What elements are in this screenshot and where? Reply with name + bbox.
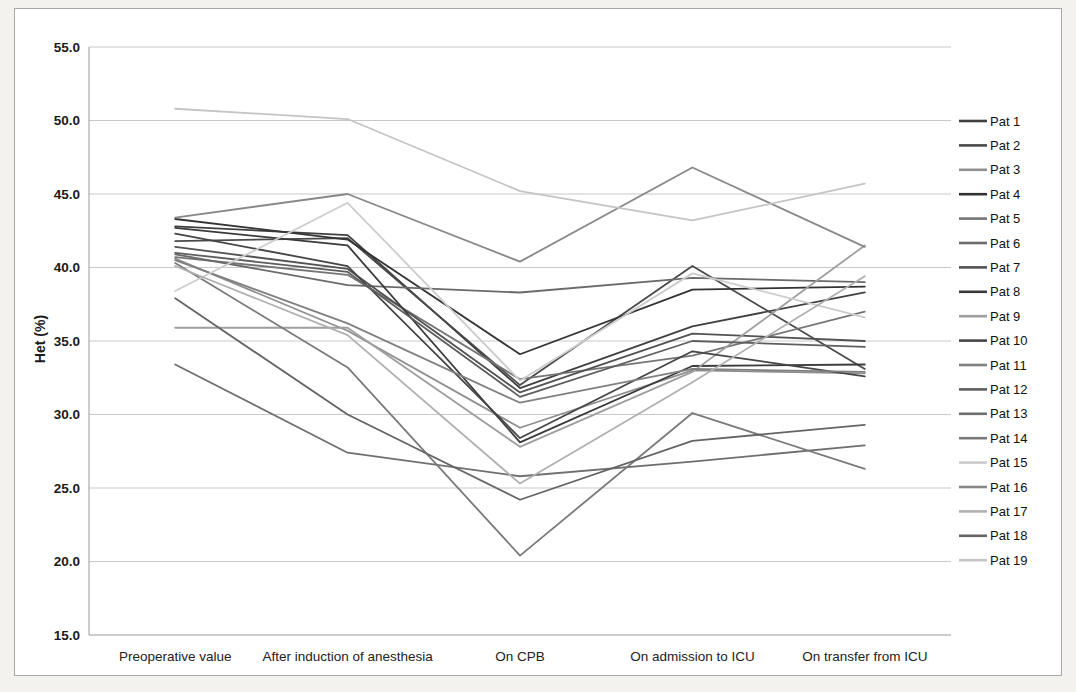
legend-item-pat-18: Pat 18 (959, 528, 1028, 543)
legend-label: Pat 10 (990, 333, 1028, 348)
legend-label: Pat 15 (990, 455, 1028, 470)
legend-label: Pat 19 (990, 553, 1028, 568)
legend-item-pat-5: Pat 5 (959, 211, 1020, 226)
y-tick-label: 35.0 (54, 334, 80, 349)
x-category-label: On CPB (495, 649, 545, 664)
x-category-label: Preoperative value (119, 649, 232, 664)
legend-label: Pat 1 (990, 114, 1020, 129)
y-tick-label: 30.0 (54, 407, 80, 422)
x-category-label: On transfer from ICU (802, 649, 927, 664)
y-tick-label: 25.0 (54, 481, 80, 496)
legend-label: Pat 6 (990, 236, 1020, 251)
legend-item-pat-8: Pat 8 (959, 284, 1020, 299)
legend-item-pat-10: Pat 10 (959, 333, 1028, 348)
legend-item-pat-15: Pat 15 (959, 455, 1028, 470)
legend-item-pat-17: Pat 17 (959, 504, 1028, 519)
x-category-label: On admission to ICU (630, 649, 755, 664)
page: 55.050.045.040.035.030.025.020.015.0Preo… (0, 0, 1076, 692)
legend-label: Pat 13 (990, 406, 1028, 421)
legend-label: Pat 16 (990, 480, 1028, 495)
legend-label: Pat 12 (990, 382, 1028, 397)
legend-item-pat-14: Pat 14 (959, 431, 1028, 446)
legend-item-pat-4: Pat 4 (959, 187, 1020, 202)
legend-item-pat-12: Pat 12 (959, 382, 1028, 397)
legend-item-pat-16: Pat 16 (959, 480, 1028, 495)
legend-label: Pat 4 (990, 187, 1020, 202)
y-tick-label: 20.0 (54, 554, 80, 569)
legend-label: Pat 14 (990, 431, 1028, 446)
y-tick-label: 40.0 (54, 260, 80, 275)
series-lines (175, 109, 865, 556)
legend-label: Pat 7 (990, 260, 1020, 275)
axis-labels: 55.050.045.040.035.030.025.020.015.0Preo… (54, 40, 928, 665)
legend-item-pat-2: Pat 2 (959, 138, 1020, 153)
legend-item-pat-9: Pat 9 (959, 309, 1020, 324)
legend-label: Pat 17 (990, 504, 1028, 519)
legend-label: Pat 3 (990, 162, 1020, 177)
chart-frame: 55.050.045.040.035.030.025.020.015.0Preo… (14, 8, 1062, 676)
x-category-label: After induction of anesthesia (262, 649, 433, 664)
legend-item-pat-11: Pat 11 (959, 358, 1027, 373)
y-tick-label: 15.0 (54, 628, 80, 643)
legend: Pat 1Pat 2Pat 3Pat 4Pat 5Pat 6Pat 7Pat 8… (959, 114, 1028, 568)
y-tick-label: 45.0 (54, 187, 80, 202)
legend-label: Pat 9 (990, 309, 1020, 324)
legend-item-pat-3: Pat 3 (959, 162, 1020, 177)
line-chart: 55.050.045.040.035.030.025.020.015.0Preo… (15, 9, 1061, 675)
legend-item-pat-13: Pat 13 (959, 406, 1028, 421)
y-tick-label: 55.0 (54, 40, 80, 55)
legend-item-pat-6: Pat 6 (959, 236, 1020, 251)
legend-label: Pat 2 (990, 138, 1020, 153)
legend-label: Pat 8 (990, 284, 1020, 299)
legend-item-pat-1: Pat 1 (959, 114, 1020, 129)
legend-label: Pat 18 (990, 528, 1028, 543)
y-axis-title: Het (%) (32, 315, 48, 363)
y-tick-label: 50.0 (54, 113, 80, 128)
legend-item-pat-7: Pat 7 (959, 260, 1020, 275)
legend-item-pat-19: Pat 19 (959, 553, 1028, 568)
legend-label: Pat 5 (990, 211, 1020, 226)
series-line-pat-16 (175, 168, 865, 262)
legend-label: Pat 11 (990, 358, 1027, 373)
